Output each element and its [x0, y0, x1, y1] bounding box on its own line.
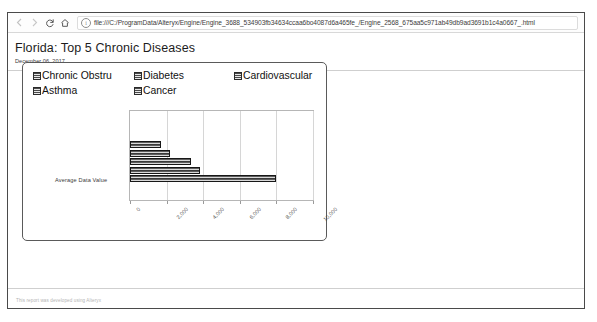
legend-item-chronic-obstru[interactable]: Chronic Obstru [33, 70, 134, 81]
x-axis-ticks: 02,0004,0006,0008,00010,000 [129, 201, 314, 241]
page-title: Florida: Top 5 Chronic Diseases [15, 41, 584, 55]
chart-card: Chronic Obstru Diabetes Cardiovascular A… [22, 62, 327, 241]
home-icon [60, 18, 70, 28]
tick-mark [203, 201, 204, 204]
home-button[interactable] [57, 15, 72, 30]
reload-icon [45, 18, 55, 28]
bar-cardiovascular[interactable] [130, 158, 191, 165]
reload-button[interactable] [42, 15, 57, 30]
bar-diabetes[interactable] [130, 150, 170, 157]
tick-label: 6,000 [248, 206, 262, 220]
legend-row: Chronic Obstru Diabetes Cardiovascular [33, 70, 323, 85]
bar-cancer[interactable] [130, 175, 276, 182]
arrow-right-icon [30, 18, 39, 27]
back-button[interactable] [12, 15, 27, 30]
tick-label: 8,000 [284, 206, 298, 220]
bar-asthma[interactable] [130, 167, 200, 174]
legend-label: Cardiovascular [243, 70, 312, 81]
info-circle-icon[interactable]: i [81, 18, 91, 28]
url-text: file:///C:/ProgramData/Alteryx/Engine/En… [94, 19, 535, 26]
legend-swatch-icon [134, 72, 142, 80]
legend-item-diabetes[interactable]: Diabetes [134, 70, 234, 81]
address-bar[interactable]: i file:///C:/ProgramData/Alteryx/Engine/… [77, 16, 578, 30]
plot-area [129, 110, 314, 201]
footer-divider [8, 288, 584, 289]
legend-item-asthma[interactable]: Asthma [33, 85, 134, 96]
legend-item-cardiovascular[interactable]: Cardiovascular [234, 70, 312, 81]
tick-mark [313, 201, 314, 204]
plot-wrap: Average Data Value 02,0004,0006,0008,000… [23, 101, 326, 241]
tick-mark [276, 201, 277, 204]
legend-swatch-icon [33, 72, 41, 80]
tick-label: 0 [135, 206, 141, 212]
bar-chronic-obstru[interactable] [130, 141, 161, 148]
legend-label: Diabetes [143, 70, 184, 81]
chart-legend: Chronic Obstru Diabetes Cardiovascular A… [33, 70, 323, 100]
tick-label: 4,000 [211, 206, 225, 220]
tick-mark [167, 201, 168, 204]
legend-swatch-icon [33, 87, 41, 95]
legend-label: Asthma [42, 85, 77, 96]
forward-button[interactable] [27, 15, 42, 30]
tick-mark [130, 201, 131, 204]
gridline [313, 111, 314, 200]
page-content: Florida: Top 5 Chronic Diseases December… [8, 33, 584, 308]
tick-label: 2,000 [175, 206, 189, 220]
arrow-left-icon [15, 18, 24, 27]
browser-toolbar: i file:///C:/ProgramData/Alteryx/Engine/… [8, 13, 584, 33]
legend-label: Chronic Obstru [42, 70, 112, 81]
legend-swatch-icon [234, 72, 242, 80]
tick-label: 10,000 [322, 206, 338, 222]
browser-window: i file:///C:/ProgramData/Alteryx/Engine/… [7, 12, 585, 309]
bars-layer [130, 111, 313, 200]
report-footer: This report was developed using Alteryx [16, 298, 101, 303]
legend-swatch-icon [134, 87, 142, 95]
legend-row: Asthma Cancer [33, 85, 323, 100]
tick-mark [240, 201, 241, 204]
legend-item-cancer[interactable]: Cancer [134, 85, 234, 96]
legend-label: Cancer [143, 85, 177, 96]
y-axis-title: Average Data Value [55, 177, 107, 183]
